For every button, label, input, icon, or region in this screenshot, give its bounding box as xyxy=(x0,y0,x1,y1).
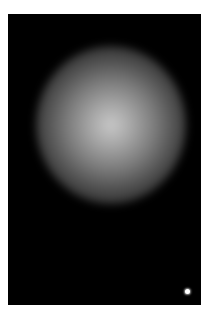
image-panel xyxy=(8,14,201,305)
point-source xyxy=(185,289,190,294)
diffuse-glow xyxy=(36,46,186,204)
